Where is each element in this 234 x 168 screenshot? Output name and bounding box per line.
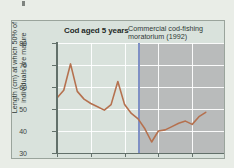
y-tick-label-80: 80 bbox=[11, 40, 27, 47]
x-tick-label-2000: 2000 bbox=[179, 158, 205, 159]
y-tick-label-30: 30 bbox=[11, 150, 27, 157]
x-axis-line bbox=[56, 153, 225, 155]
data-series-line bbox=[57, 43, 225, 153]
x-tick-1985 bbox=[91, 153, 92, 157]
x-tick-1980 bbox=[57, 153, 58, 157]
x-tick-label-2005: 2005 bbox=[211, 158, 225, 159]
x-tick-2000 bbox=[192, 153, 193, 157]
x-tick-label-1995: 1995 bbox=[145, 158, 171, 159]
plot-area bbox=[57, 43, 225, 153]
y-axis-line bbox=[56, 42, 58, 154]
chart-panel: Cod aged 5 years Commercial cod-fishing … bbox=[11, 20, 225, 159]
x-tick-label-1990: 1990 bbox=[112, 158, 138, 159]
y-tick-label-50: 50 bbox=[11, 106, 27, 113]
y-tick-label-70: 70 bbox=[11, 62, 27, 69]
x-tick-1990 bbox=[125, 153, 126, 157]
x-tick-label-1980: 1980 bbox=[44, 158, 70, 159]
x-tick-1995 bbox=[158, 153, 159, 157]
figure-container: Cod aged 5 years Commercial cod-fishing … bbox=[0, 0, 234, 168]
x-tick-label-1985: 1985 bbox=[78, 158, 104, 159]
moratorium-annotation-label: Commercial cod-fishing moratorium (1992) bbox=[128, 25, 224, 42]
chart-title: Cod aged 5 years bbox=[64, 26, 129, 35]
y-tick-label-40: 40 bbox=[11, 128, 27, 135]
scan-artifact bbox=[22, 1, 25, 6]
y-tick-label-60: 60 bbox=[11, 84, 27, 91]
